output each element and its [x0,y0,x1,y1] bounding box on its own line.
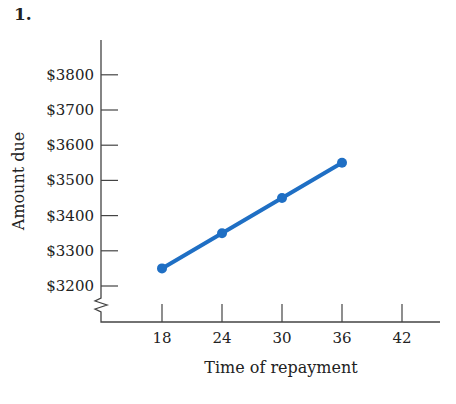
x-tick-label: 24 [212,329,231,347]
line-chart: $3200$3300$3400$3500$3600$3700$3800 1824… [0,0,456,404]
y-tick-label: $3500 [46,171,94,189]
y-axis-ticks: $3200$3300$3400$3500$3600$3700$3800 [46,66,118,295]
axis-lines [95,40,440,322]
series-line [162,163,342,269]
x-tick-label: 42 [392,329,411,347]
y-tick-label: $3400 [46,207,94,225]
x-tick-label: 36 [332,329,351,347]
axes [95,40,440,322]
data-point [337,158,347,168]
y-tick-label: $3800 [46,66,94,84]
y-axis-label: Amount due [9,132,28,232]
y-tick-label: $3600 [46,136,94,154]
x-tick-label: 30 [272,329,291,347]
x-tick-label: 18 [152,329,171,347]
x-axis-label: Time of repayment [204,358,358,377]
data-point [277,193,287,203]
data-point [217,228,227,238]
y-tick-label: $3200 [46,277,94,295]
data-series [157,158,347,274]
x-axis-ticks: 1824303642 [152,304,411,347]
y-tick-label: $3300 [46,242,94,260]
y-tick-label: $3700 [46,101,94,119]
data-point [157,263,167,273]
